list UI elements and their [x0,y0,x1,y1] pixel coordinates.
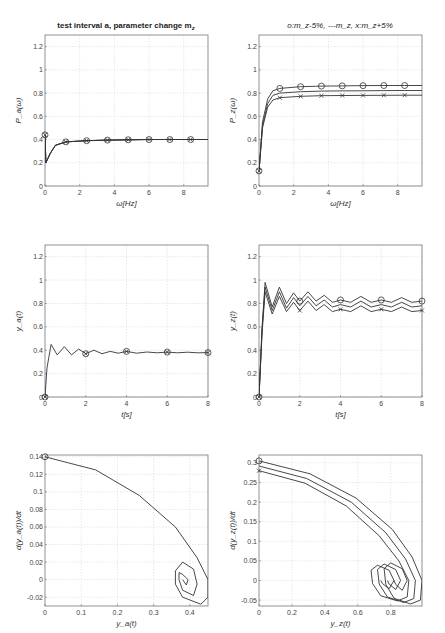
series-line [45,457,208,604]
y-tick-label: 0 [253,577,257,584]
subplot-p3: 0246800.20.40.60.811.2t[s]y_a(t) [14,245,211,419]
x-axis-label: y_a(t) [115,619,137,628]
x-tick-label: 8 [420,400,424,407]
x-tick-label: 6 [147,189,151,196]
y-tick-label: 0.1 [33,488,43,495]
y-tick-label: 0 [39,183,43,190]
y-tick-label: 0 [253,183,257,190]
x-axis-label: y_z(t) [330,619,351,628]
x-tick-label: 0.4 [320,609,330,616]
y-tick-label: -0.05 [241,597,257,604]
y-tick-label: 0.4 [33,136,43,143]
subplot-p2: 0246800.20.40.60.811.2ω[Hz]P_z(ω) [228,35,422,208]
y-tick-label: 0.8 [33,90,43,97]
y-axis-label: P_a(ω) [14,97,23,123]
x-tick-label: 2 [298,400,302,407]
series-line [259,466,415,603]
y-tick-label: 0.4 [247,136,257,143]
y-axis-label: d(y_z(t))/dt [228,510,237,549]
x-tick-label: 2 [84,400,88,407]
y-tick-label: 0.15 [243,518,257,525]
y-tick-label: 0.2 [33,370,43,377]
y-tick-label: 0.04 [29,541,43,548]
y-tick-label: 1.2 [33,43,43,50]
x-tick-label: 0 [43,189,47,196]
figure-canvas: test interval a, parameter change mz o:m… [0,0,445,633]
right-column-title: o:m_z-5%, ---m_z, x:m_z+5% [287,21,393,30]
x-tick-label: 4 [339,400,343,407]
y-tick-label: 0.2 [247,159,257,166]
y-tick-label: 0.8 [33,300,43,307]
x-tick-label: 2 [78,189,82,196]
x-marker [84,352,88,356]
y-tick-label: 0.8 [247,90,257,97]
y-tick-label: 0.12 [29,471,43,478]
x-tick-label: 8 [206,400,210,407]
y-tick-label: 1.2 [247,253,257,260]
x-tick-label: 0.1 [76,609,86,616]
x-tick-label: 0.8 [386,609,396,616]
y-tick-label: 0.1 [247,538,257,545]
y-tick-label: 0.4 [33,347,43,354]
x-tick-label: 0.2 [113,609,123,616]
y-tick-label: 1 [39,66,43,73]
subplot-p1: 0246800.20.40.60.811.2ω[Hz]P_a(ω) [14,35,208,208]
y-tick-label: 0 [39,394,43,401]
y-tick-label: 1 [253,66,257,73]
y-axis-label: y_z(t) [228,311,237,332]
x-tick-label: 2 [292,189,296,196]
subplot-p6: 00.20.40.60.8-0.0500.050.10.150.20.250.3… [228,455,422,628]
y-tick-label: 1.2 [247,43,257,50]
y-tick-label: 0.6 [247,113,257,120]
x-tick-label: 0 [257,400,261,407]
y-tick-label: 0.05 [243,557,257,564]
subplot-p5: 00.10.20.30.4-0.0200.020.040.060.080.10.… [14,453,208,628]
y-tick-label: 0.14 [29,453,43,460]
x-axis-label: t[s] [121,410,132,419]
x-tick-label: 6 [165,400,169,407]
series-line [259,471,409,601]
y-axis-label: P_z(ω) [228,97,237,123]
x-tick-label: 0 [257,609,261,616]
left-column-title: test interval a, parameter change mz [57,21,194,31]
series-line [259,282,422,397]
y-tick-label: 0.4 [247,347,257,354]
y-tick-label: 1 [253,277,257,284]
y-tick-label: 1.2 [33,253,43,260]
x-tick-label: 4 [125,400,129,407]
y-tick-label: 0.25 [243,479,257,486]
y-tick-label: 1 [39,277,43,284]
y-tick-label: 0.06 [29,523,43,530]
y-tick-label: -0.02 [27,594,43,601]
y-tick-label: 0.2 [247,499,257,506]
y-tick-label: 0.02 [29,559,43,566]
x-tick-label: 8 [182,189,186,196]
x-tick-label: 0 [43,400,47,407]
x-tick-label: 4 [326,189,330,196]
x-tick-label: 6 [361,189,365,196]
y-tick-label: 0.08 [29,506,43,513]
x-tick-label: 8 [396,189,400,196]
x-tick-label: 6 [379,400,383,407]
y-axis-label: y_a(t) [14,310,23,332]
x-axis-label: ω[Hz] [330,199,351,208]
x-tick-label: 0.3 [149,609,159,616]
x-tick-label: 0 [257,189,261,196]
x-tick-label: 0 [43,609,47,616]
series-line [259,95,422,171]
y-tick-label: 0 [39,576,43,583]
y-tick-label: 0.2 [247,370,257,377]
axes-frame [45,455,208,606]
x-axis-label: ω[Hz] [116,199,137,208]
y-tick-label: 0.6 [33,323,43,330]
y-tick-label: 0.3 [247,459,257,466]
x-tick-label: 4 [112,189,116,196]
y-tick-label: 0.2 [33,159,43,166]
subplot-p4: 0246800.20.40.60.811.2t[s]y_z(t) [228,245,425,419]
x-tick-label: 0.2 [287,609,297,616]
y-tick-label: 0.8 [247,300,257,307]
y-axis-label: d(y_a(t))/dt [14,510,23,550]
x-axis-label: t[s] [335,410,346,419]
x-tick-label: 0.6 [353,609,363,616]
y-tick-label: 0.6 [247,323,257,330]
